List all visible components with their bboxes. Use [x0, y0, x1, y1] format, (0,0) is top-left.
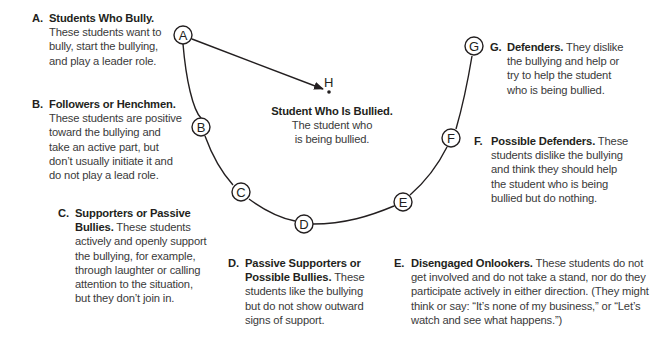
role-g-title: Defenders. [507, 41, 563, 53]
svg-text:F: F [447, 131, 455, 146]
node-b: B [192, 118, 210, 136]
svg-text:E: E [399, 195, 408, 210]
node-e: E [394, 193, 412, 211]
role-a: A. Students Who Bully. These students wa… [32, 11, 172, 68]
node-f: F [442, 129, 460, 147]
node-d: D [295, 215, 313, 233]
role-b-title: Followers or Henchmen. [49, 97, 192, 111]
h-dot [327, 90, 331, 94]
role-d: D. Passive Supporters or Possible Bullie… [228, 256, 388, 327]
arrow-a-to-h [192, 39, 323, 89]
center-line-2: is being bullied. [258, 132, 406, 146]
role-d-title: Passive Supporters or [245, 256, 388, 270]
role-a-title: Students Who Bully. [49, 11, 172, 25]
role-c-title: Supporters or Passive [75, 206, 218, 220]
role-e: E. Disengaged Onlookers. These students … [394, 256, 656, 327]
svg-text:G: G [469, 39, 479, 54]
svg-text:D: D [299, 217, 308, 232]
center-line-1: The student who [258, 118, 406, 132]
node-a: A [174, 26, 192, 44]
role-f-title: Possible Defenders. [491, 135, 595, 147]
role-c: C. Supporters or Passive Bullies. These … [58, 206, 218, 305]
role-b: B. Followers or Henchmen. These students… [32, 97, 192, 182]
node-label-h: H [324, 75, 333, 90]
svg-text:A: A [179, 28, 188, 43]
svg-text:C: C [236, 185, 245, 200]
node-c: C [232, 183, 250, 201]
svg-text:B: B [197, 120, 206, 135]
role-f: F. Possible Defenders. These students di… [474, 134, 649, 205]
role-g: G. Defenders. They dislike the bullying … [490, 40, 650, 97]
center-description: Student Who Is Bullied. The student who … [258, 104, 406, 147]
role-e-title: Disengaged Onlookers. [411, 257, 533, 269]
node-g: G [465, 37, 483, 55]
center-title: Student Who Is Bullied. [258, 104, 406, 118]
